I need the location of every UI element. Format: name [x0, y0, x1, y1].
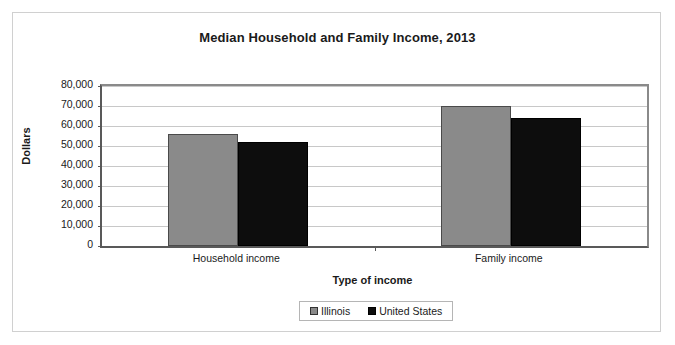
y-axis-tick: [98, 186, 102, 187]
legend-item-illinois: Illinois: [310, 305, 350, 317]
legend-swatch-illinois: [310, 307, 318, 315]
y-axis-tick-label: 10,000: [29, 219, 93, 229]
y-axis-tick: [98, 106, 102, 107]
x-axis-category-label: Family income: [373, 252, 646, 264]
y-axis-tick-label: 70,000: [29, 99, 93, 109]
bar-household-income-illinois: [168, 134, 238, 246]
category-divider: [375, 246, 376, 251]
y-axis-tick: [98, 246, 102, 247]
gridline: [102, 86, 647, 87]
y-axis-tick-label: 0: [29, 239, 93, 249]
chart-title: Median Household and Family Income, 2013: [0, 30, 675, 45]
bar-household-income-united-states: [238, 142, 308, 247]
y-axis-tick-label: 40,000: [29, 159, 93, 169]
legend-label-illinois: Illinois: [321, 305, 350, 317]
y-axis-tick-label: 50,000: [29, 139, 93, 149]
gridline: [102, 106, 647, 107]
y-axis-tick: [98, 166, 102, 167]
legend-label-united-states: United States: [379, 305, 442, 317]
y-axis-tick: [98, 146, 102, 147]
legend-item-united-states: United States: [368, 305, 442, 317]
chart-figure: Median Household and Family Income, 2013…: [0, 0, 675, 345]
y-axis-tick-label: 30,000: [29, 179, 93, 189]
plot-area: [100, 84, 649, 248]
y-axis-tick: [98, 86, 102, 87]
bar-family-income-illinois: [441, 106, 511, 246]
bar-family-income-united-states: [511, 118, 581, 246]
y-axis-tick: [98, 226, 102, 227]
y-axis-tick: [98, 126, 102, 127]
x-axis-category-label: Household income: [100, 252, 373, 264]
y-axis-tick-label: 20,000: [29, 199, 93, 209]
chart-legend: Illinois United States: [299, 301, 453, 321]
x-axis-title: Type of income: [100, 274, 645, 286]
y-axis-tick-label: 60,000: [29, 119, 93, 129]
legend-swatch-united-states: [368, 307, 376, 315]
y-axis-tick-label: 80,000: [29, 79, 93, 89]
y-axis-tick: [98, 206, 102, 207]
